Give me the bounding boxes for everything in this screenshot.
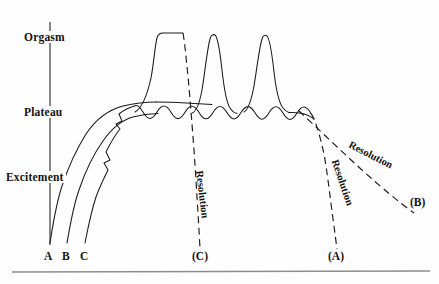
start-label-a: A	[44, 250, 52, 262]
end-label-a: (A)	[328, 250, 344, 262]
axis-label-excitement: Excitement	[4, 171, 66, 183]
curve-b-excitement	[67, 113, 158, 243]
curve-a-resolution	[311, 113, 337, 249]
curve-a-orgasm-1	[135, 33, 183, 112]
start-label-b: B	[62, 250, 70, 262]
curve-c-resolution	[183, 33, 200, 248]
response-cycle-figure: Orgasm Plateau Excitement A B C (C) (A) …	[0, 0, 439, 284]
baseline-rule	[12, 271, 430, 272]
end-label-c: (C)	[192, 250, 208, 262]
axis-label-orgasm: Orgasm	[22, 31, 67, 43]
curve-c-wavy-plateau	[136, 106, 311, 120]
curve-c-excitement	[85, 106, 136, 244]
end-label-b: (B)	[410, 196, 425, 208]
curve-a-orgasm-3	[244, 35, 289, 112]
curve-a-orgasm-2	[192, 35, 237, 114]
curve-a-plateau	[156, 102, 212, 104]
axis-label-plateau: Plateau	[22, 106, 64, 118]
start-label-c: C	[80, 250, 88, 262]
curve-a-excitement	[50, 102, 156, 243]
